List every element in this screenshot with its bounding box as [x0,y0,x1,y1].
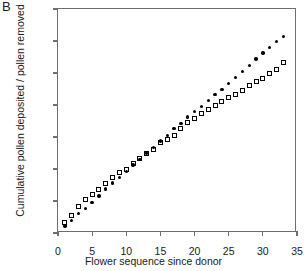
data-point-filled-circle [261,51,264,54]
data-point-open-square [281,60,286,65]
plot-area: 00.0050.010.0150.020.0250.030.035 051015… [57,8,296,232]
data-point-filled-circle [84,207,87,210]
data-point-open-square [240,88,245,93]
data-point-open-square [76,204,81,209]
data-point-filled-circle [193,110,196,113]
data-point-filled-circle [63,224,66,227]
x-tick-mark [194,231,195,236]
data-point-open-square [213,103,218,108]
data-point-filled-circle [220,88,223,91]
data-points-layer [58,9,295,231]
x-axis-title: Flower sequence since donor [0,255,307,267]
data-point-open-square [172,133,177,138]
x-tick-mark [228,231,229,236]
data-point-open-square [233,92,238,97]
panel-label: B [2,0,11,13]
data-point-open-square [206,107,211,112]
data-point-filled-circle [275,40,278,43]
data-point-open-square [83,197,88,202]
x-tick-mark [262,231,263,236]
data-point-filled-circle [213,93,216,96]
data-point-open-square [274,67,279,72]
data-point-filled-circle [111,181,114,184]
data-point-filled-circle [159,139,162,142]
data-point-open-square [185,120,190,125]
data-point-open-square [90,192,95,197]
data-point-filled-circle [207,99,210,102]
data-point-open-square [103,181,108,186]
data-point-open-square [192,116,197,121]
data-point-open-square [267,71,272,76]
data-point-filled-circle [241,70,244,73]
data-point-filled-circle [172,127,175,130]
x-tick-mark [126,231,127,236]
data-point-filled-circle [200,105,203,108]
data-point-filled-circle [248,64,251,67]
data-point-open-square [260,76,265,81]
data-point-filled-circle [268,46,271,49]
data-point-open-square [226,95,231,100]
data-point-filled-circle [90,201,93,204]
x-tick-mark [57,231,58,236]
data-point-open-square [69,213,74,218]
data-point-open-square [165,137,170,142]
data-point-open-square [254,79,259,84]
data-point-open-square [96,187,101,192]
data-point-filled-circle [77,212,80,215]
data-point-filled-circle [186,115,189,118]
data-point-filled-circle [254,57,257,60]
y-axis-title: Cumulative pollen deposited / pollen rem… [15,0,26,226]
x-tick-mark [296,231,297,236]
data-point-filled-circle [234,76,237,79]
data-point-filled-circle [97,194,100,197]
data-point-filled-circle [104,187,107,190]
data-point-open-square [117,170,122,175]
data-point-open-square [199,111,204,116]
data-point-filled-circle [131,163,134,166]
data-point-open-square [178,126,183,131]
data-point-filled-circle [138,158,141,161]
data-point-filled-circle [179,122,182,125]
data-point-filled-circle [125,170,128,173]
data-point-open-square [110,175,115,180]
data-point-filled-circle [70,219,73,222]
data-point-filled-circle [282,35,285,38]
data-point-open-square [247,83,252,88]
data-point-open-square [219,99,224,104]
x-tick-mark [92,231,93,236]
x-tick-mark [160,231,161,236]
data-point-filled-circle [118,176,121,179]
data-point-filled-circle [227,82,230,85]
figure-panel-b: B Cumulative pollen deposited / pollen r… [0,0,307,271]
